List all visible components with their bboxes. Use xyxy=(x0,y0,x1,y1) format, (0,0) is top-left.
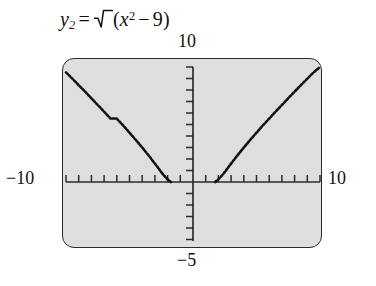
curve-left-branch xyxy=(66,72,171,182)
equation-close-paren: ) xyxy=(163,8,170,30)
curve-right-branch xyxy=(215,67,320,182)
y-min-label: −5 xyxy=(177,250,196,271)
equation-radicand-variable: x xyxy=(120,8,129,30)
calculator-screen xyxy=(62,58,322,248)
graphing-calculator-figure: y2= (x2−9) xyxy=(0,0,376,286)
plot-area xyxy=(63,59,322,248)
radical-icon xyxy=(93,9,113,29)
y-max-label: 10 xyxy=(178,31,196,52)
equation-minus: − xyxy=(135,8,152,30)
equation-caption: y2= (x2−9) xyxy=(60,8,170,33)
equation-equals: = xyxy=(75,8,92,30)
x-min-label: −10 xyxy=(6,168,34,189)
equation-lhs-variable: y xyxy=(60,8,69,30)
x-max-label: 10 xyxy=(328,168,346,189)
equation-constant: 9 xyxy=(153,8,163,30)
equation-open-paren: ( xyxy=(113,8,120,30)
y-axis-ticks xyxy=(186,67,193,240)
